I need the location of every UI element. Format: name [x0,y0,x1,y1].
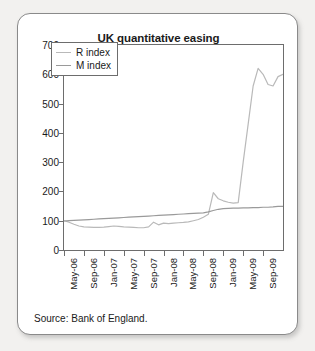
y-axis-tick-label: 100 [25,215,59,226]
source-note: Source: Bank of England. [34,313,147,324]
series-line-m-index [64,206,283,221]
legend-label-m-index: M index [76,59,111,72]
y-axis-tick-label: 0 [25,245,59,256]
x-axis-tick [203,251,204,256]
x-axis-tick [144,251,145,256]
legend-item-r-index: R index [56,46,111,59]
x-axis-tick [84,251,85,256]
x-axis-tick-label: Sep-08 [207,258,218,289]
legend-swatch-r-index [56,52,71,53]
x-axis-tick-label: May-08 [187,258,198,290]
x-axis-tick [243,251,244,256]
x-axis-tick [124,251,125,256]
y-axis-tick-label: 200 [25,186,59,197]
chart-card: UK quantitative easing 01002003004005006… [17,13,298,335]
x-axis-tick [64,251,65,256]
legend-swatch-m-index [56,65,71,66]
x-axis-tick [164,251,165,256]
legend-item-m-index: M index [56,59,111,72]
x-axis-tick-label: Jan-09 [227,258,238,287]
x-axis-tick-label: Sep-09 [267,258,278,289]
x-axis-tick-label: Sep-06 [88,258,99,289]
x-axis-tick-label: May-09 [247,258,258,290]
x-axis-tick [263,251,264,256]
x-axis-tick [183,251,184,256]
y-axis-tick-label: 300 [25,157,59,168]
y-axis-tick-label: 400 [25,127,59,138]
x-axis-tick [104,251,105,256]
x-axis-tick-label: Jan-07 [108,258,119,287]
x-axis-tick-label: Jan-08 [168,258,179,287]
x-axis-tick [223,251,224,256]
legend-label-r-index: R index [76,46,110,59]
chart-legend: R index M index [51,42,118,76]
x-axis-tick-label: May-07 [128,258,139,290]
x-axis-tick-label: May-06 [68,258,79,290]
y-axis-tick-label: 500 [25,98,59,109]
x-axis-tick-label: Sep-07 [148,258,159,289]
series-line-r-index [64,68,283,227]
screenshot-root: UK quantitative easing 01002003004005006… [0,0,315,351]
x-axis: May-06Sep-06Jan-07May-07Sep-07Jan-08May-… [63,251,284,313]
